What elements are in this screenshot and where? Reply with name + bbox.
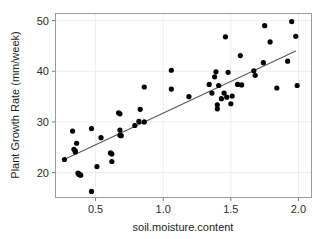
y-tick-label: 50: [37, 15, 49, 27]
data-point: [216, 83, 221, 88]
data-point: [209, 90, 214, 95]
data-point: [239, 82, 244, 87]
data-point: [224, 95, 229, 100]
data-point: [285, 59, 290, 64]
data-point: [230, 94, 235, 99]
y-tick-label: 30: [37, 116, 49, 128]
panel-background: [55, 13, 312, 198]
data-point: [117, 111, 122, 116]
data-point: [213, 69, 218, 74]
data-point: [212, 74, 217, 79]
data-point: [215, 106, 220, 111]
data-point: [169, 68, 174, 73]
x-tick-label: 0.5: [88, 203, 103, 215]
data-point: [274, 85, 279, 90]
data-point: [73, 149, 78, 154]
data-point: [62, 157, 67, 162]
data-point: [89, 126, 94, 131]
data-point: [117, 127, 122, 132]
data-point: [119, 133, 124, 138]
data-point: [238, 53, 243, 58]
data-point: [186, 94, 191, 99]
chart-canvas: 0.51.01.52.0 20304050 soil.moisture.cont…: [0, 0, 334, 239]
data-point: [138, 107, 143, 112]
data-point: [253, 73, 258, 78]
data-point: [78, 173, 83, 178]
data-point: [262, 23, 267, 28]
x-tick-label: 1.0: [156, 203, 171, 215]
data-point: [267, 39, 272, 44]
data-point: [132, 123, 137, 128]
x-axis-title: soil.moisture.content: [133, 221, 234, 233]
data-point: [142, 119, 147, 124]
data-point: [219, 96, 224, 101]
scatter-plot-figure: 0.51.01.52.0 20304050 soil.moisture.cont…: [0, 0, 334, 239]
data-point: [74, 141, 79, 146]
data-point: [293, 34, 298, 39]
data-point: [295, 83, 300, 88]
data-point: [89, 189, 94, 194]
data-point: [136, 119, 141, 124]
data-point: [94, 164, 99, 169]
y-tick-label: 40: [37, 65, 49, 77]
x-tick-label: 2.0: [291, 203, 306, 215]
data-point: [207, 82, 212, 87]
data-point: [109, 159, 114, 164]
data-point: [142, 84, 147, 89]
data-point: [98, 135, 103, 140]
data-point: [289, 19, 294, 24]
data-point: [223, 34, 228, 39]
data-point: [261, 60, 266, 65]
data-point: [251, 68, 256, 73]
x-tick-label: 1.5: [223, 203, 238, 215]
data-point: [70, 129, 75, 134]
data-point: [226, 70, 231, 75]
y-tick-label: 20: [37, 167, 49, 179]
y-axis-title: Plant Growth Rate (mm/week): [9, 31, 21, 178]
data-point: [169, 86, 174, 91]
data-point: [109, 151, 114, 156]
data-point: [228, 101, 233, 106]
